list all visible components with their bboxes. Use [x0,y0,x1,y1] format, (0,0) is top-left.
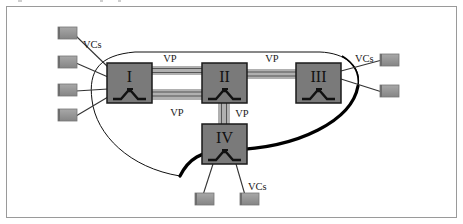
terminals-left [58,27,77,121]
label-vcs-left: VCs [83,39,102,50]
vp-pipe-II-IV [218,103,230,124]
caption-remnant [18,0,121,2]
switch-node-III[interactable]: III [296,63,341,103]
terminal-box[interactable] [195,193,214,205]
label-vp-vertical: VP [235,108,249,119]
terminals-bottom [195,193,259,205]
node-label-I: I [127,68,132,85]
terminal-box[interactable] [240,193,259,205]
terminal-box[interactable] [380,54,399,66]
terminal-box[interactable] [380,85,399,97]
label-vp-top-left: VP [163,53,177,64]
switch-node-II[interactable]: II [202,63,247,103]
label-vp-bottom-left: VP [170,107,184,118]
label-vcs-bottom: VCs [248,181,267,192]
node-label-IV: IV [216,129,233,146]
vp-pipe-I-II-bottom [152,89,202,100]
terminal-box[interactable] [58,109,77,121]
vp-pipe-II-III [247,69,296,79]
terminal-box[interactable] [58,27,77,39]
node-label-II: II [219,68,230,85]
label-vp-top-right: VP [265,53,279,64]
label-vcs-right: VCs [355,53,374,64]
vp-pipe-I-II-top [152,66,202,75]
terminal-box[interactable] [58,56,77,68]
terminal-box[interactable] [58,84,77,96]
switch-node-IV[interactable]: IV [202,124,247,164]
switch-node-I[interactable]: I [107,63,152,103]
node-label-III: III [311,68,327,85]
terminals-right [380,54,399,97]
diagram-canvas: I II III IV [0,0,463,224]
